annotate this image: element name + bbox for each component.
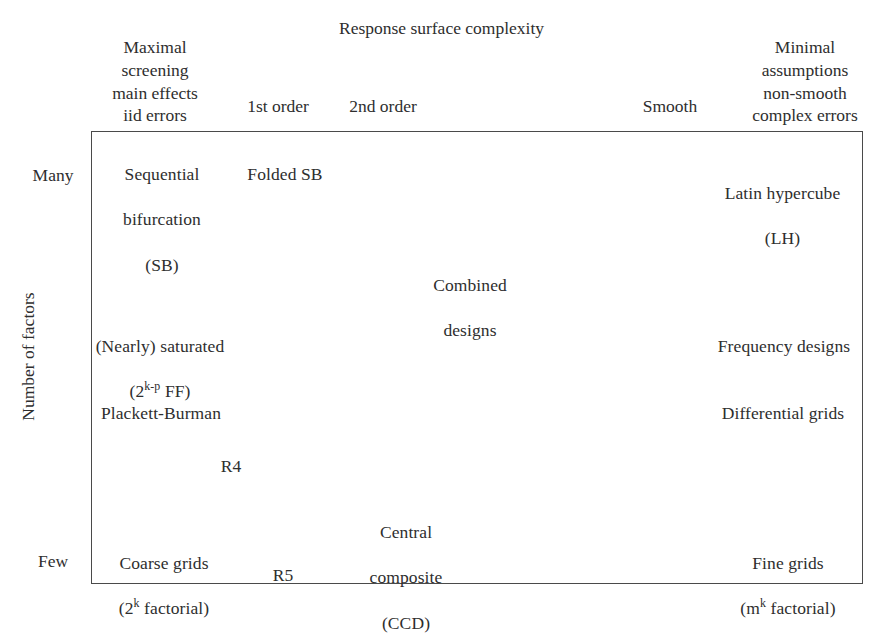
- entry-sequential-bifurcation: Sequential bifurcation (SB): [96, 140, 228, 299]
- column-header-maximal-screening: Maximal screening main effects iid error…: [91, 36, 219, 127]
- entry-line: Combined: [404, 274, 536, 297]
- y-axis-title: Number of factors: [18, 267, 39, 447]
- column-header-line: 1st order: [228, 95, 328, 118]
- column-header-minimal-assumptions: Minimal assumptions non-smooth complex e…: [731, 36, 879, 127]
- entry-r5: R5: [248, 541, 318, 609]
- entry-line: (LH): [705, 227, 860, 250]
- column-header-second-order: 2nd order: [333, 95, 433, 118]
- entry-line: Folded SB: [230, 163, 340, 186]
- entry-line: designs: [404, 319, 536, 342]
- entry-combined-designs: Combined designs: [404, 251, 536, 365]
- entry-r4: R4: [196, 432, 266, 500]
- entry-line: (CCD): [342, 612, 470, 635]
- entry-line: Sequential: [96, 163, 228, 186]
- entry-line: Differential grids: [705, 402, 861, 425]
- row-label-many: Many: [18, 165, 88, 186]
- entry-line: Frequency designs: [706, 335, 862, 358]
- column-header-line: Maximal: [91, 36, 219, 59]
- entry-line: Coarse grids: [94, 552, 234, 575]
- column-header-line: complex errors: [731, 104, 879, 127]
- column-header-line: screening: [91, 59, 219, 82]
- row-label-few: Few: [18, 551, 88, 572]
- column-header-line: main effects: [91, 82, 219, 105]
- entry-folded-sb: Folded SB: [230, 140, 340, 208]
- entry-line: Central: [342, 521, 470, 544]
- entry-line-formula: (2k factorial): [94, 597, 234, 620]
- entry-line: (Nearly) saturated: [84, 335, 236, 358]
- entry-line: Plackett-Burman: [86, 402, 236, 425]
- column-header-smooth: Smooth: [620, 95, 720, 118]
- column-header-line: assumptions: [731, 59, 879, 82]
- column-header-line: 2nd order: [333, 95, 433, 118]
- entry-line: R5: [248, 564, 318, 587]
- entry-line: R4: [196, 455, 266, 478]
- column-header-line: non-smooth: [731, 82, 879, 105]
- entry-latin-hypercube: Latin hypercube (LH): [705, 159, 860, 273]
- entry-coarse-grids: Coarse grids (2k factorial): [94, 529, 234, 637]
- entry-fine-grids: Fine grids (mk factorial): [716, 529, 860, 637]
- entry-frequency-designs: Frequency designs: [706, 312, 862, 380]
- entry-central-composite: Central composite (CCD): [342, 498, 470, 637]
- entry-line: Fine grids: [716, 552, 860, 575]
- column-header-line: Smooth: [620, 95, 720, 118]
- entry-line: (SB): [96, 254, 228, 277]
- entry-line: composite: [342, 566, 470, 589]
- column-header-line: iid errors: [91, 104, 219, 127]
- entry-line-formula: (mk factorial): [716, 597, 860, 620]
- entry-line: Latin hypercube: [705, 182, 860, 205]
- column-header-line: Minimal: [731, 36, 879, 59]
- entry-line: bifurcation: [96, 208, 228, 231]
- entry-differential-grids: Differential grids: [705, 379, 861, 447]
- column-header-first-order: 1st order: [228, 95, 328, 118]
